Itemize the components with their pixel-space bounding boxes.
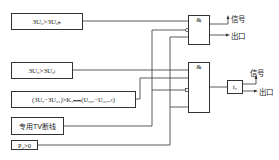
- gate2-signal-label: 信号: [250, 67, 264, 78]
- tv-break-label: 专用TV断线: [19, 121, 56, 131]
- p2-label: P₂>0: [18, 142, 31, 149]
- condition-box-2: 3U₀>3U₀ₗ: [11, 62, 73, 79]
- gate1-trip-label: 出口: [231, 30, 245, 41]
- timer-box: t₀: [227, 80, 243, 94]
- tv-break-box: 专用TV断线: [11, 117, 64, 135]
- and-gate-2-label: &: [196, 63, 201, 71]
- and-gate-1-label: &: [196, 16, 201, 24]
- and-gate-2: &: [188, 62, 210, 113]
- condition-3-label: (3U₀−3U₀₁)>K₃ₘₘ(U₀₀ₑ−U₀₃ₒₑₜ): [32, 96, 115, 104]
- condition-2-label: 3U₀>3U₀ₗ: [29, 67, 56, 75]
- condition-box-3: (3U₀−3U₀₁)>K₃ₘₘ(U₀₀ₑ−U₀₃ₒₑₜ): [11, 91, 136, 108]
- condition-1-label: 3U₀>3U₀ₕ: [33, 18, 62, 26]
- condition-box-1: 3U₀>3U₀ₕ: [11, 13, 83, 30]
- p2-box: P₂>0: [11, 140, 38, 150]
- gate2-trip-label: 出口: [259, 86, 273, 97]
- timer-label: t₀: [233, 83, 237, 91]
- and-gate-1: &: [188, 15, 210, 45]
- gate1-signal-label: 信号: [231, 13, 245, 24]
